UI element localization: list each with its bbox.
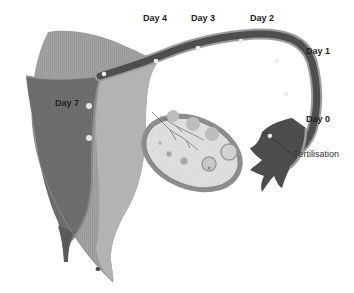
label-fertilisation: Fertilisation — [293, 150, 339, 159]
label-day7: Day 7 — [55, 99, 79, 108]
label-day0: Day 0 — [306, 115, 330, 124]
mature-follicle — [221, 144, 237, 160]
embryo-dot-day3 — [196, 46, 201, 51]
label-day2: Day 2 — [250, 14, 274, 23]
follicle — [205, 127, 219, 141]
follicle — [166, 151, 172, 157]
label-day3: Day 3 — [191, 14, 215, 23]
follicle — [208, 167, 211, 170]
embryo-dot-day0b — [284, 92, 289, 97]
embryo-dot-day7 — [86, 103, 92, 109]
ovary — [133, 103, 251, 204]
follicle — [186, 117, 200, 131]
reproductive-anatomy-illustration — [0, 0, 354, 293]
embryo-dot-implanted — [86, 135, 92, 141]
embryo-dot-day5 — [102, 72, 107, 77]
label-day4: Day 4 — [143, 14, 167, 23]
follicle — [167, 110, 179, 122]
label-day1: Day 1 — [306, 47, 330, 56]
embryo-dot-day4 — [154, 59, 159, 64]
embryo-dot-day2 — [239, 39, 244, 44]
uterus-wall-highlight — [96, 62, 158, 282]
embryo-dot-day1 — [275, 59, 280, 64]
follicle — [180, 157, 188, 165]
follicle — [158, 141, 162, 145]
